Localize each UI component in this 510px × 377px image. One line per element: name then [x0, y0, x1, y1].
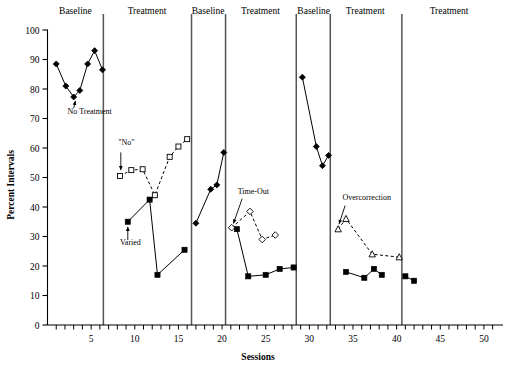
- marker-open-square: [117, 174, 122, 179]
- single-case-design-line-chart: BaselineTreatmentBaselineTreatmentBaseli…: [0, 0, 510, 377]
- marker-filled-square: [182, 247, 187, 252]
- x-axis-title: Sessions: [241, 352, 275, 362]
- x-tick-label: 35: [348, 334, 358, 344]
- phase-label: Treatment: [430, 6, 469, 16]
- marker-filled-square: [362, 275, 367, 280]
- marker-filled-square: [263, 272, 268, 277]
- marker-filled-square: [411, 278, 416, 283]
- marker-filled-square: [125, 219, 130, 224]
- x-tick-label: 15: [174, 334, 184, 344]
- y-tick-label: 60: [30, 144, 40, 154]
- marker-filled-square: [403, 274, 408, 279]
- marker-open-square: [176, 144, 181, 149]
- marker-open-square: [140, 167, 145, 172]
- x-tick-label: 40: [392, 334, 402, 344]
- y-tick-label: 80: [30, 85, 40, 95]
- chart-root: BaselineTreatmentBaselineTreatmentBaseli…: [0, 0, 510, 377]
- marker-open-square: [129, 168, 134, 173]
- x-tick-label: 30: [305, 334, 315, 344]
- y-tick-label: 100: [25, 26, 40, 36]
- marker-open-square: [152, 193, 157, 198]
- annotation-label: Time-Out: [238, 187, 270, 196]
- marker-filled-square: [343, 269, 348, 274]
- phase-label: Treatment: [241, 6, 280, 16]
- y-tick-label: 90: [30, 55, 40, 65]
- marker-filled-square: [291, 265, 296, 270]
- phase-label: Baseline: [192, 6, 225, 16]
- x-tick-label: 5: [89, 334, 94, 344]
- y-tick-label: 50: [30, 173, 40, 183]
- phase-label: Baseline: [297, 6, 330, 16]
- marker-open-square: [167, 154, 172, 159]
- marker-filled-square: [379, 272, 384, 277]
- x-tick-label: 50: [479, 334, 489, 344]
- annotation-label: Varied: [120, 238, 141, 247]
- marker-filled-square: [371, 266, 376, 271]
- marker-filled-square: [234, 227, 239, 232]
- marker-open-square: [185, 137, 190, 142]
- x-tick-label: 45: [436, 334, 446, 344]
- phase-label: Treatment: [346, 6, 385, 16]
- phase-label: Baseline: [59, 6, 92, 16]
- y-tick-label: 30: [30, 232, 40, 242]
- marker-filled-square: [246, 274, 251, 279]
- y-tick-label: 10: [30, 291, 40, 301]
- y-tick-label: 70: [30, 114, 40, 124]
- marker-filled-square: [147, 197, 152, 202]
- phase-label: Treatment: [128, 6, 167, 16]
- y-axis-title: Percent Intervals: [6, 150, 16, 220]
- x-tick-label: 20: [217, 334, 227, 344]
- x-tick-label: 10: [130, 334, 140, 344]
- y-tick-label: 20: [30, 262, 40, 272]
- annotation-label: Overcorrection: [343, 193, 391, 202]
- marker-filled-square: [277, 266, 282, 271]
- marker-filled-square: [155, 272, 160, 277]
- y-tick-label: 0: [35, 321, 40, 331]
- annotation-label: No Treatment: [68, 107, 113, 116]
- x-tick-label: 25: [261, 334, 271, 344]
- annotation-label: "No": [118, 138, 134, 147]
- y-tick-label: 40: [30, 203, 40, 213]
